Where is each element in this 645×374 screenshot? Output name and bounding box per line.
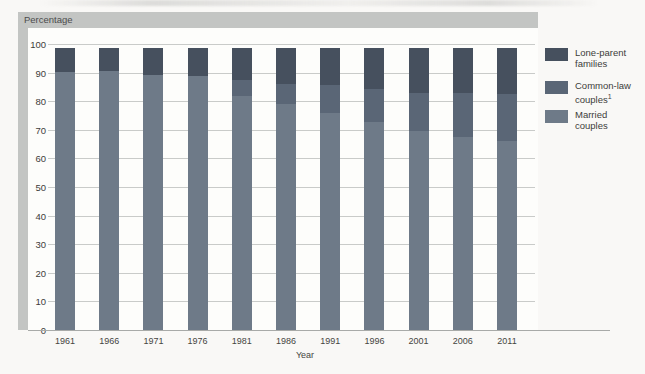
bar-1976-lone-parent-families (188, 48, 208, 76)
legend-swatch-married (545, 110, 568, 123)
bar-1971-lone-parent-families (143, 48, 163, 74)
y-tick-label: 20 (27, 268, 46, 279)
x-tick-label-2006: 2006 (441, 336, 485, 346)
bar-2006-married-couples (453, 137, 473, 330)
x-tick-label-2001: 2001 (397, 336, 441, 346)
bar-1986-common-law-couples (276, 84, 296, 104)
bar-1996-married-couples (364, 122, 384, 330)
x-tick-label-1986: 1986 (264, 336, 308, 346)
bar-1981-common-law-couples (232, 80, 252, 96)
y-tick-label: 40 (27, 211, 46, 222)
x-tick-label-1991: 1991 (308, 336, 352, 346)
bar-1991-common-law-couples (320, 85, 340, 113)
y-tick-label: 90 (27, 68, 46, 79)
bar-1996-common-law-couples (364, 89, 384, 122)
bar-1961-lone-parent-families (55, 48, 75, 72)
legend-swatch-lone-parent (545, 48, 568, 61)
legend-swatch-common-law (545, 81, 568, 94)
bar-1966-married-couples (99, 71, 119, 330)
y-tick-label: 30 (27, 239, 46, 250)
bar-2006-common-law-couples (453, 93, 473, 137)
legend-label-married: Marriedcouples (575, 109, 645, 131)
x-axis-title: Year (283, 350, 327, 360)
bar-1991-married-couples (320, 113, 340, 330)
bar-2001-lone-parent-families (409, 48, 429, 92)
y-axis-title-band: Percentage (18, 12, 538, 28)
y-tick-label: 100 (27, 39, 46, 50)
bar-2001-common-law-couples (409, 93, 429, 132)
legend: Lone-parentfamiliesCommon-lawcouples1Mar… (545, 0, 645, 200)
bar-2006-lone-parent-families (453, 48, 473, 93)
x-tick-label-1971: 1971 (131, 336, 175, 346)
y-tick-label: 80 (27, 96, 46, 107)
y-tick-label: 10 (27, 296, 46, 307)
x-tick-label-1961: 1961 (43, 336, 87, 346)
bar-1981-lone-parent-families (232, 48, 252, 80)
bar-1971-married-couples (143, 75, 163, 330)
x-tick-label-1966: 1966 (87, 336, 131, 346)
scanned-page: Percentage 0102030405060708090100 196119… (0, 0, 645, 374)
bar-1966-lone-parent-families (99, 48, 119, 71)
bar-1961-married-couples (55, 72, 75, 330)
bar-1986-lone-parent-families (276, 48, 296, 83)
y-axis-title: Percentage (24, 14, 73, 25)
gridline-100 (48, 44, 535, 45)
bar-1976-married-couples (188, 76, 208, 330)
legend-label-common-law: Common-lawcouples1 (575, 80, 645, 105)
x-tick-label-2011: 2011 (485, 336, 529, 346)
bar-1996-lone-parent-families (364, 48, 384, 89)
bar-2011-lone-parent-families (497, 48, 517, 94)
bar-2001-married-couples (409, 131, 429, 330)
scan-artifact (40, 0, 600, 6)
y-tick-label: 60 (27, 153, 46, 164)
x-tick-label-1976: 1976 (176, 336, 220, 346)
bar-1986-married-couples (276, 104, 296, 330)
x-tick-label-1981: 1981 (220, 336, 264, 346)
x-tick-label-1996: 1996 (352, 336, 396, 346)
y-tick-label: 70 (27, 125, 46, 136)
legend-footnote-marker: 1 (608, 93, 612, 100)
y-tick-label: 50 (27, 182, 46, 193)
bar-1991-lone-parent-families (320, 48, 340, 84)
bar-2011-married-couples (497, 141, 517, 330)
legend-label-lone-parent: Lone-parentfamilies (575, 47, 645, 69)
bar-1981-married-couples (232, 96, 252, 330)
x-axis-line (28, 330, 610, 331)
bar-2011-common-law-couples (497, 94, 517, 141)
